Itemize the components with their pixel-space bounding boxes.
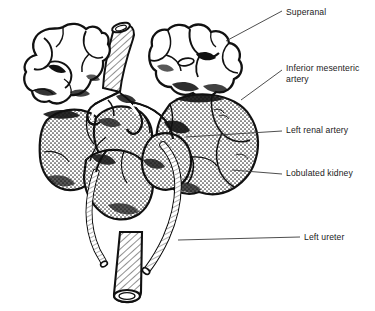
aorta-lower (114, 232, 142, 302)
leader-ima (241, 70, 282, 100)
label-left-ureter: Left ureter (304, 232, 345, 243)
leader-suprarenal (226, 11, 282, 41)
anatomy-illustration (0, 0, 375, 311)
anatomical-figure: Superanal Inferior mesenteric artery Lef… (0, 0, 375, 311)
label-lobulated-kidney: Lobulated kidney (286, 168, 353, 179)
label-left-renal-artery: Left renal artery (286, 125, 348, 136)
leader-ureter (178, 237, 300, 240)
left-suprarenal-gland (24, 24, 110, 104)
label-suprarenal: Superanal (286, 7, 326, 18)
label-inferior-mesenteric-artery: Inferior mesenteric artery (286, 63, 359, 85)
right-suprarenal-gland (149, 25, 242, 98)
